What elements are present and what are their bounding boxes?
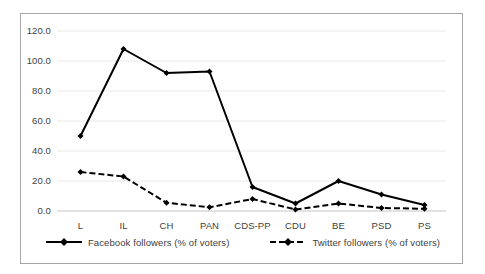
legend-label: Facebook followers (% of voters) <box>88 237 230 248</box>
legend-item-facebook[interactable]: Facebook followers (% of voters) <box>45 236 230 248</box>
y-tick-label: 120.0 <box>15 25 51 36</box>
y-tick-label: 0.0 <box>15 205 51 216</box>
y-tick-label: 80.0 <box>15 85 51 96</box>
chart-frame: 0.020.040.060.080.0100.0120.0 LILCHPANCD… <box>20 13 463 264</box>
data-point-marker <box>293 207 299 213</box>
y-tick-label: 100.0 <box>15 55 51 66</box>
data-point-marker <box>78 169 84 175</box>
series-facebook <box>78 46 428 208</box>
data-point-marker <box>207 204 213 210</box>
y-tick-label: 60.0 <box>15 115 51 126</box>
legend-swatch <box>269 236 307 248</box>
series-twitter <box>78 169 428 213</box>
data-point-marker <box>336 201 342 207</box>
series-line <box>81 172 425 210</box>
data-point-marker <box>379 192 385 198</box>
x-tick-label-ps: PS <box>395 220 455 231</box>
chart-legend: Facebook followers (% of voters)Twitter … <box>0 236 485 248</box>
y-tick-label: 40.0 <box>15 145 51 156</box>
y-tick-label: 20.0 <box>15 175 51 186</box>
series-line <box>81 49 425 205</box>
data-point-marker <box>250 184 256 190</box>
legend-swatch <box>45 236 83 248</box>
legend-label: Twitter followers (% of voters) <box>312 237 440 248</box>
data-point-marker <box>379 205 385 211</box>
data-point-marker <box>207 69 213 75</box>
data-point-marker <box>250 196 256 202</box>
legend-item-twitter[interactable]: Twitter followers (% of voters) <box>269 236 440 248</box>
